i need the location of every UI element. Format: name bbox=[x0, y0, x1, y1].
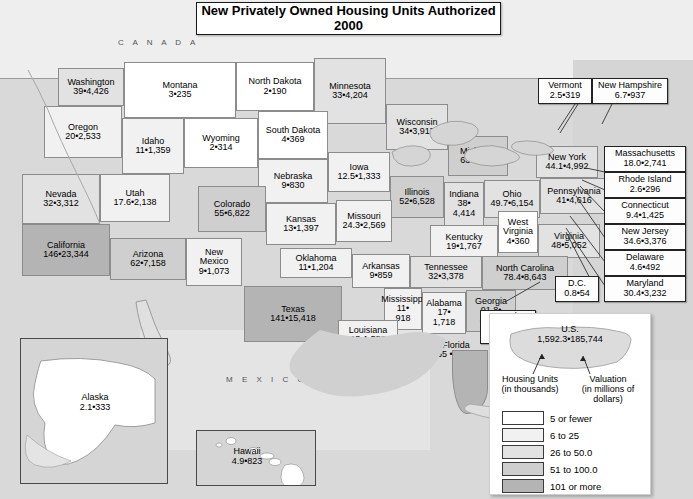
state-value: 17.6•2,138 bbox=[113, 198, 156, 207]
state-oklahoma[interactable]: Oklahoma 11•1,204 bbox=[280, 248, 352, 278]
state-value: 11•1,359 bbox=[135, 146, 170, 155]
legend-annot-line: dollars) bbox=[570, 395, 646, 405]
state-value: 146•23,344 bbox=[43, 250, 89, 259]
state-value: 3•235 bbox=[168, 90, 191, 99]
state-value: 15•1,553 bbox=[350, 335, 386, 344]
state-utah[interactable]: Utah 17.6•2,138 bbox=[100, 174, 170, 222]
callout-value: 2.5•319 bbox=[550, 91, 581, 101]
state-illinois[interactable]: Illinois 52•6,528 bbox=[390, 176, 444, 218]
mexico-label: M E X I C O bbox=[226, 375, 307, 384]
hawaii-inset[interactable]: Hawaii 4.9•823 bbox=[196, 430, 316, 486]
legend-bin-row[interactable]: 51 to 100.0 bbox=[502, 461, 648, 477]
legend-bin-label: 6 to 25 bbox=[550, 430, 579, 441]
state-missouri[interactable]: Missouri 24.3•2,569 bbox=[336, 200, 392, 242]
state-california[interactable]: California 146•23,344 bbox=[22, 224, 110, 276]
state-michigan[interactable]: Michigan 63•6,256 bbox=[448, 136, 508, 176]
legend-bin-row[interactable]: 101 or more bbox=[502, 478, 648, 494]
state-pennsylvania[interactable]: Pennsylvania 41•4,616 bbox=[540, 178, 608, 214]
state-oregon[interactable]: Oregon 20•2,533 bbox=[44, 106, 122, 158]
state-value: 32•3,312 bbox=[43, 199, 79, 208]
state-alabama[interactable]: Alabama 17• 1,718 bbox=[422, 292, 466, 334]
map-container: C A N A D A M E X I C O Washington 39•4,… bbox=[0, 0, 693, 499]
callout-maryland[interactable]: Maryland 30.4•3,232 bbox=[604, 276, 686, 302]
state-value: 39•4,426 bbox=[73, 87, 109, 96]
legend-swatch bbox=[502, 411, 544, 425]
state-texas[interactable]: Texas 141•15,418 bbox=[244, 286, 342, 342]
legend-housing-units-annotation: Housing Units (in thousands) bbox=[492, 375, 568, 395]
state-louisiana[interactable]: Louisiana 15•1,553 bbox=[338, 320, 398, 350]
legend-bin-label: 26 to 50.0 bbox=[550, 447, 592, 458]
state-value: 13•1,397 bbox=[283, 224, 319, 233]
state-iowa[interactable]: Iowa 12.5•1,333 bbox=[328, 152, 390, 192]
state-idaho[interactable]: Idaho 11•1,359 bbox=[122, 118, 184, 174]
state-arkansas[interactable]: Arkansas 9•859 bbox=[352, 254, 410, 288]
legend-bin-row[interactable]: 5 or fewer bbox=[502, 410, 648, 426]
alaska-inset[interactable]: Alaska 2.1•333 bbox=[20, 338, 168, 484]
state-kentucky[interactable]: Kentucky 19•1,767 bbox=[430, 225, 498, 259]
state-virginia[interactable]: Virginia 48•5,052 bbox=[538, 224, 600, 258]
state-tennessee[interactable]: Tennessee 32•3,378 bbox=[410, 256, 482, 288]
florida-peninsula-shape bbox=[452, 350, 488, 414]
state-value: 2•314 bbox=[209, 143, 232, 152]
state-wyoming[interactable]: Wyoming 2•314 bbox=[184, 118, 258, 168]
callout-connecticut[interactable]: Connecticut 9.4•1,425 bbox=[604, 198, 686, 224]
state-value: 33•4,204 bbox=[332, 91, 368, 100]
state-wisconsin[interactable]: Wisconsin 34•3,917 bbox=[386, 104, 448, 150]
callout-dc[interactable]: D.C. 0.8•54 bbox=[555, 276, 599, 302]
title-line-1: New Privately Owned Housing Units Author… bbox=[201, 4, 495, 19]
callout-value: 34.6•3,376 bbox=[623, 237, 666, 247]
state-montana[interactable]: Montana 3•235 bbox=[124, 62, 236, 118]
legend-valuation-annotation: Valuation (in millions of dollars) bbox=[570, 375, 646, 405]
state-west-virginia[interactable]: West Virginia 4•360 bbox=[498, 211, 538, 253]
state-indiana[interactable]: Indiana 38• 4,414 bbox=[444, 182, 484, 226]
state-value: 49.7•6,154 bbox=[490, 199, 533, 208]
callout-value: 18.0•2,741 bbox=[623, 159, 666, 169]
legend-bin-row[interactable]: 6 to 25 bbox=[502, 427, 648, 443]
legend-bin-row[interactable]: 26 to 50.0 bbox=[502, 444, 648, 460]
alaska-label: Alaska 2.1•333 bbox=[21, 393, 169, 413]
state-value: 141•15,418 bbox=[270, 314, 316, 323]
callout-new-jersey[interactable]: New Jersey 34.6•3,376 bbox=[604, 224, 686, 250]
state-value: 11•1,204 bbox=[298, 263, 333, 272]
state-value: 2•190 bbox=[263, 87, 286, 96]
state-value-2: 1,718 bbox=[433, 318, 456, 327]
callout-value: 30.4•3,232 bbox=[623, 289, 666, 299]
callout-vermont[interactable]: Vermont 2.5•319 bbox=[538, 78, 592, 104]
state-new-york[interactable]: New York 44.1•4,992 bbox=[536, 146, 598, 178]
callout-massachusetts[interactable]: Massachusetts 18.0•2,741 bbox=[604, 146, 686, 172]
state-value: 63•6,256 bbox=[460, 156, 496, 165]
callout-delaware[interactable]: Delaware 4.6•492 bbox=[604, 250, 686, 276]
state-value: 4•360 bbox=[506, 237, 529, 246]
state-arizona[interactable]: Arizona 62•7,158 bbox=[110, 238, 186, 280]
callout-rhode-island[interactable]: Rhode Island 2.6•296 bbox=[604, 172, 686, 198]
state-north-dakota[interactable]: North Dakota 2•190 bbox=[236, 62, 314, 111]
legend-bin-label: 51 to 100.0 bbox=[550, 464, 598, 475]
state-value: 4.9•823 bbox=[197, 457, 297, 467]
state-new-mexico[interactable]: New Mexico 9•1,073 bbox=[186, 238, 242, 286]
state-nevada[interactable]: Nevada 32•3,312 bbox=[22, 174, 100, 224]
callout-new-hampshire[interactable]: New Hampshire 6.7•937 bbox=[592, 78, 668, 104]
legend-us-name: U.S. bbox=[490, 324, 650, 334]
state-value: 44.1•4,992 bbox=[545, 162, 588, 171]
legend-annot-line: (in thousands) bbox=[492, 385, 568, 395]
state-maine[interactable] bbox=[624, 110, 678, 138]
legend-swatch bbox=[502, 462, 544, 476]
state-south-dakota[interactable]: South Dakota 4•369 bbox=[258, 111, 328, 159]
state-washington[interactable]: Washington 39•4,426 bbox=[58, 68, 124, 106]
state-value: 2.1•333 bbox=[21, 403, 169, 413]
state-value: 4•369 bbox=[281, 135, 304, 144]
legend-us-numbers: 1,592.3•185,744 bbox=[490, 334, 650, 344]
legend-swatch bbox=[502, 428, 544, 442]
map-legend: U.S. 1,592.3•185,744 Housing Units (in t… bbox=[489, 313, 651, 495]
state-nebraska[interactable]: Nebraska 9•830 bbox=[258, 159, 328, 203]
state-colorado[interactable]: Colorado 55•6,822 bbox=[198, 186, 266, 232]
state-value: 9•1,073 bbox=[199, 267, 230, 276]
state-value: 32•3,378 bbox=[428, 272, 464, 281]
state-value: 55•6,822 bbox=[214, 209, 250, 218]
state-value: 52•6,528 bbox=[399, 197, 435, 206]
callout-value: 2.6•296 bbox=[630, 185, 661, 195]
state-value: 12.5•1,333 bbox=[337, 172, 380, 181]
legend-swatch bbox=[502, 479, 544, 493]
state-kansas[interactable]: Kansas 13•1,397 bbox=[266, 203, 336, 245]
legend-bin-label: 101 or more bbox=[550, 481, 601, 492]
